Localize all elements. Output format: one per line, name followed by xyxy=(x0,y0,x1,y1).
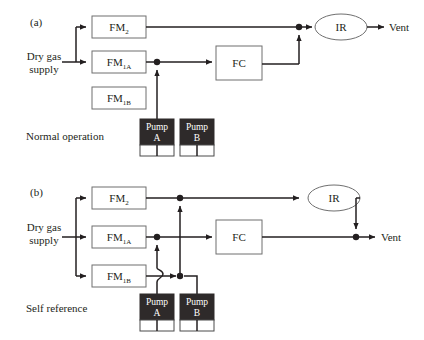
panel-b-vent-label: Vent xyxy=(381,231,401,243)
panel-b-pumpb-riser xyxy=(184,276,197,294)
panel-b-junction-to-fc xyxy=(180,237,212,276)
panel-b-source-label-line2: supply xyxy=(29,234,59,246)
panel-b-caption: Self reference xyxy=(26,302,87,314)
panel-a-vent-label: Vent xyxy=(389,21,409,33)
panel-a-pump-b: Pump B xyxy=(180,119,214,156)
panel-a: (a) Dry gas supply FM2 FM1A FM1B xyxy=(26,14,409,156)
panel-b-pump-a: Pump A xyxy=(140,294,174,331)
panel-a-analyzer-ir-label: IR xyxy=(336,21,348,33)
panel-b-box-fc-label: FC xyxy=(232,231,245,243)
panel-b-junction-vent xyxy=(353,234,359,240)
panel-a-source-label-line1: Dry gas xyxy=(27,50,62,62)
panel-b-pump-a-line1: Pump xyxy=(146,297,168,307)
panel-b-pump-b-line1: Pump xyxy=(186,297,208,307)
panel-a-pump-b-line2: B xyxy=(194,133,200,143)
panel-a-pump-a-line2: A xyxy=(154,133,161,143)
panel-a-junction-fm1a-pumpa xyxy=(154,59,160,65)
panel-b-analyzer-ir-label: IR xyxy=(329,192,341,204)
panel-b-pump-b-line2: B xyxy=(194,308,200,318)
panel-a-caption: Normal operation xyxy=(26,130,104,142)
panel-b-junction-fm1a xyxy=(154,234,160,240)
panel-b: (b) Dry gas supply FM2 FM1A FM1B xyxy=(26,185,401,331)
diagram-canvas: (a) Dry gas supply FM2 FM1A FM1B xyxy=(0,0,424,340)
panel-b-pumpa-outlet-hop xyxy=(157,268,163,294)
panel-a-pump-a-line1: Pump xyxy=(146,122,168,132)
panel-a-pump-b-line1: Pump xyxy=(186,122,208,132)
panel-b-junction-main-pumpa xyxy=(177,195,183,201)
panel-b-tag: (b) xyxy=(30,186,43,199)
panel-a-source-label-line2: supply xyxy=(29,63,59,75)
panel-a-junction-main-fc xyxy=(296,24,302,30)
flow-diagram-figure: (a) Dry gas supply FM2 FM1A FM1B xyxy=(0,0,424,340)
panel-a-pump-a: Pump A xyxy=(140,119,174,156)
panel-b-pump-a-line2: A xyxy=(154,308,161,318)
panel-b-pump-b: Pump B xyxy=(180,294,214,331)
panel-a-box-fc-label: FC xyxy=(232,57,245,69)
panel-b-source-label-line1: Dry gas xyxy=(27,221,62,233)
panel-a-tag: (a) xyxy=(30,16,43,29)
